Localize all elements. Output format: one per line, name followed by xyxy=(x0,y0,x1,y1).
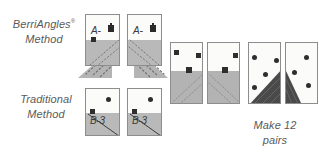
registered-mark-icon: ® xyxy=(71,18,76,24)
card-a-right[interactable]: A- xyxy=(127,14,162,66)
dark-marker-glyph-stem xyxy=(152,23,154,26)
figure-canvas: BerriAngles® Method Traditional Method M… xyxy=(0,0,319,160)
panel-middle-right[interactable] xyxy=(207,42,240,104)
panel-middle-right-streaks xyxy=(208,73,240,104)
traditional-method-label: Traditional Method xyxy=(10,92,82,122)
card-a-left-inner-streaks xyxy=(86,39,120,66)
card-b-left-dot xyxy=(106,97,111,102)
panel-middle-left-dot-topright xyxy=(196,53,201,58)
panel-right-left[interactable] xyxy=(248,42,281,104)
panel-middle-left[interactable] xyxy=(170,42,203,104)
panel-middle-right-dot-topright xyxy=(233,53,238,58)
berriangles-label-line1: BerriAngles® xyxy=(8,14,80,32)
panel-right-left-dot-topright xyxy=(274,58,279,63)
dark-marker-glyph xyxy=(150,25,156,32)
card-b-right[interactable]: B-3 xyxy=(127,88,162,136)
panel-middle-left-dot-topleft xyxy=(174,50,179,55)
card-a-left[interactable]: A- xyxy=(85,14,120,66)
panel-right-left-dot-center xyxy=(263,72,268,77)
berriangles-label-line2: Method xyxy=(8,32,80,47)
panel-right-right-dot-left xyxy=(292,70,297,75)
panel-right-left-dot-topleft xyxy=(252,55,257,60)
traditional-label-line2: Method xyxy=(10,107,82,122)
card-b-right-dot xyxy=(148,97,153,102)
make-pairs-line1: Make 12 xyxy=(238,118,312,133)
card-b-left-diagonal xyxy=(86,113,120,136)
panel-right-right[interactable] xyxy=(285,42,318,104)
card-b-right-diagonal xyxy=(128,113,162,136)
traditional-label-line1: Traditional xyxy=(10,92,82,107)
panel-right-right-dot-bottomright xyxy=(306,83,311,88)
card-a-right-label: A- xyxy=(133,25,143,36)
panel-right-left-dot-bottomleft xyxy=(252,85,257,90)
dark-marker-glyph xyxy=(108,25,114,32)
make-12-pairs-label: Make 12 pairs xyxy=(238,118,312,148)
card-b-left[interactable]: B-3 xyxy=(85,88,120,136)
berriangles-method-label: BerriAngles® Method xyxy=(8,14,80,47)
panel-middle-left-streaks xyxy=(171,73,203,104)
card-a-left-label: A- xyxy=(91,25,101,36)
card-a-right-inner-streaks xyxy=(128,39,162,66)
panel-right-right-dark-triangle xyxy=(286,43,318,104)
dark-marker-glyph-stem xyxy=(110,23,112,26)
make-pairs-line2: pairs xyxy=(238,133,312,148)
panel-right-right-dot-topright xyxy=(304,55,309,60)
